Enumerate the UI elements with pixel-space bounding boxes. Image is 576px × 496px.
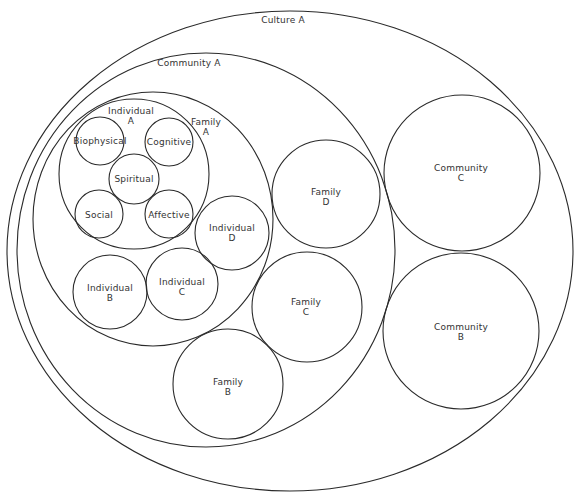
culture-a-circle: Culture A <box>7 11 573 491</box>
individual-b-label-line1: Individual <box>87 283 133 293</box>
nested-systems-diagram: Culture A Community A Family A Individua… <box>0 0 576 496</box>
community-c-label-line2: C <box>458 173 464 183</box>
individual-d-label-line2: D <box>228 233 235 243</box>
family-b-label-line2: B <box>225 387 231 397</box>
community-b-label-line2: B <box>458 332 464 342</box>
biophysical-label: Biophysical <box>73 136 126 146</box>
family-b-label-line1: Family <box>213 377 244 387</box>
individual-d-label-line1: Individual <box>209 223 255 233</box>
community-b-label-line1: Community <box>434 322 488 332</box>
family-d-circle: Family D <box>272 140 380 248</box>
individual-a-label-line1: Individual <box>108 106 154 116</box>
community-c-label-line1: Community <box>434 163 488 173</box>
individual-b-circle: Individual B <box>73 255 147 329</box>
social-label: Social <box>85 210 113 220</box>
family-d-label-line1: Family <box>311 187 342 197</box>
family-d-label-line2: D <box>322 197 329 207</box>
family-c-circle: Family C <box>252 252 362 362</box>
family-a-label-line2: A <box>203 127 210 137</box>
individual-b-label-line2: B <box>107 293 113 303</box>
affective-circle: Affective <box>145 190 193 238</box>
cognitive-label: Cognitive <box>147 137 192 147</box>
family-b-circle: Family B <box>173 329 283 439</box>
individual-c-label-line2: C <box>179 287 185 297</box>
spiritual-circle: Spiritual <box>109 154 159 204</box>
affective-label: Affective <box>148 210 190 220</box>
family-a-label-line1: Family <box>191 117 222 127</box>
biophysical-circle: Biophysical <box>73 117 126 165</box>
spiritual-label: Spiritual <box>114 174 153 184</box>
community-c-circle: Community C <box>384 95 540 251</box>
family-c-label-line2: C <box>303 307 309 317</box>
individual-c-circle: Individual C <box>146 248 218 320</box>
family-c-label-line1: Family <box>291 297 322 307</box>
cognitive-circle: Cognitive <box>145 118 193 166</box>
community-a-circle: Community A <box>17 53 395 447</box>
individual-d-circle: Individual D <box>195 196 269 270</box>
individual-a-label-line2: A <box>128 116 135 126</box>
community-a-label: Community A <box>157 58 221 68</box>
community-b-circle: Community B <box>383 253 539 409</box>
social-circle: Social <box>75 190 123 238</box>
culture-a-label: Culture A <box>261 15 305 25</box>
individual-c-label-line1: Individual <box>159 277 205 287</box>
